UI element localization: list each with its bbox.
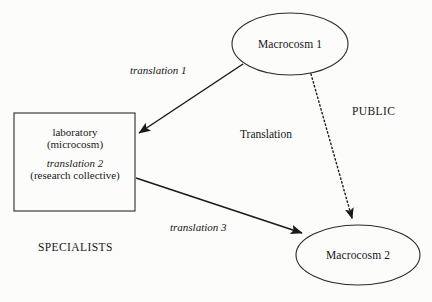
edge-label-translation3: translation 3 — [170, 221, 227, 233]
laboratory-line-3-translation2: translation 2 — [15, 157, 135, 169]
node-laboratory-label-block: laboratory (microcosm) translation 2 (re… — [15, 126, 135, 181]
edge-label-public-translation: Translation — [240, 128, 292, 141]
annotation-public: PUBLIC — [352, 105, 395, 118]
laboratory-line-4: (research collective) — [15, 169, 135, 181]
node-macrocosm2-label: Macrocosm 2 — [317, 249, 399, 262]
laboratory-line-2: (microcosm) — [15, 138, 135, 150]
diagram-canvas: Macrocosm 1 Macrocosm 2 laboratory (micr… — [0, 0, 432, 302]
laboratory-text-spacer — [15, 150, 135, 157]
edge-label-translation1: translation 1 — [130, 64, 187, 76]
node-macrocosm1-label: Macrocosm 1 — [249, 38, 331, 51]
laboratory-line-1: laboratory — [15, 126, 135, 138]
annotation-specialists: SPECIALISTS — [38, 241, 113, 254]
edge-public-translation-line — [311, 74, 352, 218]
